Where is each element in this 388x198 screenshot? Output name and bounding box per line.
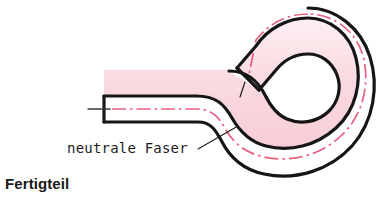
figure-caption: Fertigteil <box>5 175 69 192</box>
tube-diagram <box>0 0 388 198</box>
figure-canvas: neutrale Faser Fertigteil <box>0 0 388 198</box>
neutral-fiber-label: neutrale Faser <box>67 140 188 156</box>
